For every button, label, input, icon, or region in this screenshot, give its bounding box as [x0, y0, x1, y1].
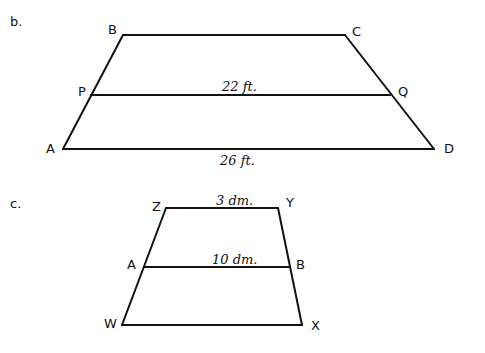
vertex-label-z: Z [152, 199, 161, 214]
vertex-label-b: B [108, 22, 117, 37]
leg-ab [63, 35, 123, 149]
measure-ad: 26 ft. [219, 153, 255, 168]
measure-pq: 22 ft. [221, 79, 257, 94]
vertex-label-x: X [311, 318, 320, 333]
vertex-label-a: A [46, 141, 55, 156]
midpoint-label-a: A [127, 257, 136, 272]
vertex-label-w: W [104, 316, 117, 331]
part-label-c: c. [10, 196, 21, 211]
figure-c: c. Z Y X W A B 3 dm. 10 dm. [10, 193, 320, 333]
part-label-b: b. [10, 14, 22, 29]
vertex-label-y: Y [285, 195, 294, 210]
diagram-canvas: b. B C D A P Q 22 ft. 26 ft. c. Z Y X W … [0, 0, 485, 353]
measure-ab: 10 dm. [212, 252, 257, 267]
figure-b: b. B C D A P Q 22 ft. 26 ft. [10, 14, 454, 168]
midpoint-label-p: P [78, 84, 86, 99]
measure-zy: 3 dm. [216, 193, 253, 208]
vertex-label-d: D [444, 141, 454, 156]
midpoint-label-b: B [296, 257, 305, 272]
vertex-label-c: C [352, 24, 361, 39]
leg-cd [345, 35, 434, 149]
midpoint-label-q: Q [398, 84, 408, 99]
